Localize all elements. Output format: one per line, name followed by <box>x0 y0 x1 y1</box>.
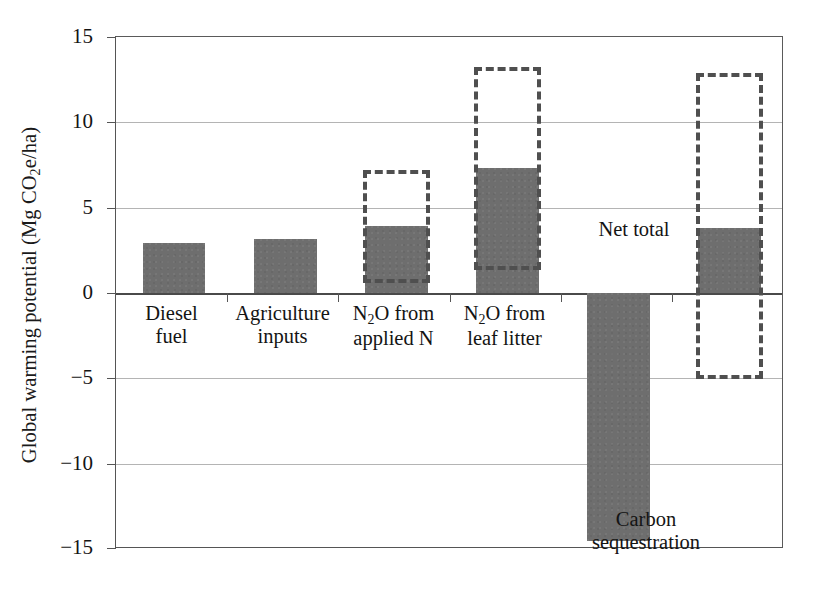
category-label-n2o-applied-n-line1: N2O from <box>337 302 450 327</box>
category-label-n2o-applied-n-line2: applied N <box>337 327 450 350</box>
label-carbon-sequestration-line2: sequestration <box>556 531 736 554</box>
n2o-applied-n-subscript: 2 <box>368 312 375 327</box>
y-tick-label-0: 0 <box>83 282 94 303</box>
n2o-applied-n-post: O from <box>375 302 435 324</box>
y-tick-minus10: −10 <box>107 464 116 465</box>
label-net-total: Net total <box>575 218 693 241</box>
category-label-diesel-fuel-line2: fuel <box>115 325 228 348</box>
y-tick-label-minus10: −10 <box>60 453 93 474</box>
y-tick-minus5: −5 <box>107 378 116 379</box>
y-axis-title-pre: Global warming potential (Mg CO <box>18 175 40 463</box>
y-axis-title-post: e/ha) <box>18 127 40 168</box>
x-tick-3 <box>450 293 451 302</box>
y-axis-title: Global warming potential (Mg CO2e/ha) <box>18 127 44 463</box>
category-label-diesel-fuel: Diesel fuel <box>115 302 228 348</box>
category-label-n2o-applied-n: N2O from applied N <box>337 302 450 351</box>
category-label-n2o-leaf-litter: N2O from leaf litter <box>448 302 561 351</box>
y-tick-label-5: 5 <box>83 197 94 218</box>
n2o-leaf-litter-pre: N <box>464 302 479 324</box>
category-label-diesel-fuel-line1: Diesel <box>115 302 228 325</box>
y-axis-title-subscript: 2 <box>28 168 43 175</box>
y-tick-5: 5 <box>107 208 116 209</box>
y-tick-minus15: −15 <box>107 548 116 549</box>
uncertainty-box-net-total <box>696 73 763 379</box>
label-net-total-line1: Net total <box>575 218 693 241</box>
y-tick-0: 0 <box>107 293 116 294</box>
category-label-n2o-leaf-litter-line1: N2O from <box>448 302 561 327</box>
gridline-minus5 <box>116 378 782 379</box>
chart-page: Global warming potential (Mg CO2e/ha) 15… <box>0 0 816 590</box>
bar-diesel-fuel <box>143 243 205 293</box>
n2o-applied-n-pre: N <box>353 302 368 324</box>
y-tick-label-minus15: −15 <box>60 537 93 558</box>
y-tick-15: 15 <box>107 37 116 38</box>
gridline-minus10 <box>116 464 782 465</box>
y-tick-10: 10 <box>107 122 116 123</box>
x-tick-1 <box>227 293 228 302</box>
bar-carbon-sequestration <box>587 293 650 541</box>
uncertainty-box-n2o-applied-n <box>363 170 430 283</box>
x-tick-5 <box>672 293 673 302</box>
n2o-leaf-litter-post: O from <box>486 302 546 324</box>
category-label-agriculture-inputs: Agriculture inputs <box>226 302 339 348</box>
label-carbon-sequestration: Carbon sequestration <box>556 508 736 554</box>
uncertainty-box-n2o-leaf-litter <box>474 67 541 270</box>
category-label-agriculture-inputs-line2: inputs <box>226 325 339 348</box>
category-label-n2o-leaf-litter-line2: leaf litter <box>448 327 561 350</box>
plot-area: 15 10 5 0 −5 −10 −15 <box>115 36 783 548</box>
zero-baseline <box>116 293 782 295</box>
y-axis-title-container: Global warming potential (Mg CO2e/ha) <box>14 0 48 590</box>
bar-agriculture-inputs <box>254 239 317 293</box>
x-tick-4 <box>561 293 562 302</box>
gridline-10 <box>116 122 782 123</box>
category-label-agriculture-inputs-line1: Agriculture <box>226 302 339 325</box>
y-tick-label-minus5: −5 <box>71 367 93 388</box>
label-carbon-sequestration-line1: Carbon <box>556 508 736 531</box>
y-tick-label-15: 15 <box>72 26 93 47</box>
x-tick-2 <box>338 293 339 302</box>
n2o-leaf-litter-subscript: 2 <box>479 312 486 327</box>
y-tick-label-10: 10 <box>72 111 93 132</box>
gridline-5 <box>116 208 782 209</box>
